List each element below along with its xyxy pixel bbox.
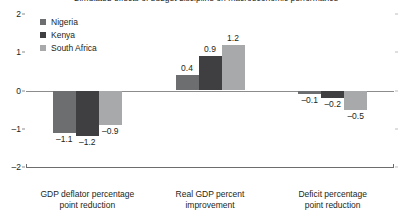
y-axis-tick-mark: [22, 52, 25, 53]
category-label-line: GDP deflator percentage: [26, 189, 149, 200]
bar: [344, 91, 367, 110]
bar: [99, 91, 122, 125]
bar-chart: Simulated effects of budget discipline o…: [0, 0, 412, 217]
bar: [321, 91, 344, 99]
y-axis-tick-mark-right: [395, 90, 398, 91]
y-axis-tick-mark-right: [395, 52, 398, 53]
bar: [298, 91, 321, 95]
y-axis-tick-label: 0: [16, 86, 21, 95]
y-axis-tick-mark: [22, 90, 25, 91]
y-axis-tick-mark: [22, 167, 25, 168]
plot-area: 210–1–2–1.1–1.2–0.9GDP deflator percenta…: [26, 14, 394, 167]
category-label-line: point reduction: [26, 200, 149, 211]
bar: [53, 91, 76, 133]
x-axis-end-cap: [26, 164, 27, 168]
bar: [222, 45, 245, 91]
x-axis-category-label: GDP deflator percentagepoint reduction: [26, 189, 149, 210]
bar-value-label: 1.2: [218, 34, 249, 43]
y-axis-tick-label: –1: [12, 125, 21, 134]
x-axis-end-cap: [393, 164, 394, 168]
y-axis-tick-mark-right: [395, 167, 398, 168]
bar-value-label: –1.2: [72, 138, 103, 147]
y-axis-tick-label: 1: [16, 48, 21, 57]
x-axis-category-label: Real GDP percentimprovement: [149, 189, 272, 210]
category-label-line: Real GDP percent: [149, 189, 272, 200]
bar-value-label: –0.9: [95, 127, 126, 136]
x-axis-category-label: Deficit percentagepoint reduction: [271, 189, 394, 210]
y-axis-tick-label: –2: [12, 163, 21, 172]
y-axis-tick-mark: [22, 14, 25, 15]
x-axis-line: [26, 167, 394, 168]
y-axis-tick-mark: [22, 128, 25, 129]
bar-value-label: –0.5: [340, 112, 371, 121]
bar: [176, 75, 199, 90]
category-label-line: improvement: [149, 200, 272, 211]
category-label-line: point reduction: [271, 200, 394, 211]
chart-title: Simulated effects of budget discipline o…: [0, 0, 412, 3]
category-label-line: Deficit percentage: [271, 189, 394, 200]
y-axis-tick-mark-right: [395, 14, 398, 15]
y-axis-tick-mark-right: [395, 128, 398, 129]
bar: [199, 56, 222, 90]
y-axis-tick-label: 2: [16, 10, 21, 19]
